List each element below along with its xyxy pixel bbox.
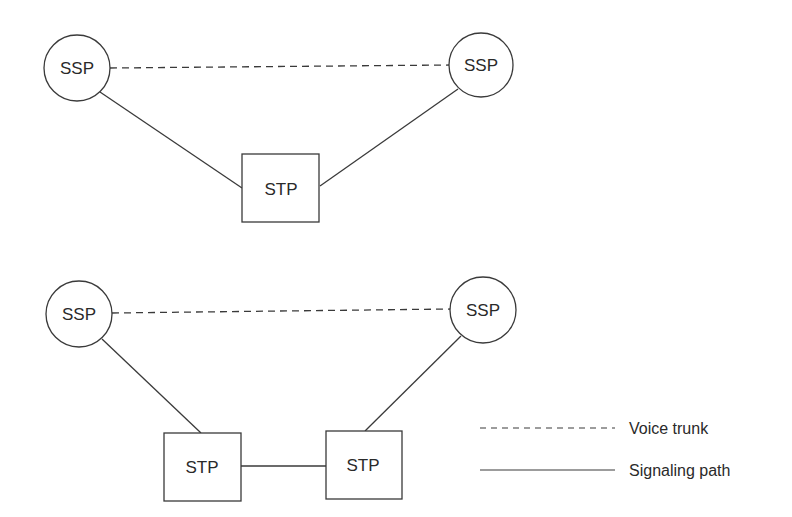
ssp-label: SSP [466,301,500,320]
signaling-path-line [100,92,242,188]
ssp-label: SSP [62,305,96,324]
signaling-path-line [320,89,458,186]
legend [480,428,615,470]
stp-label: STP [346,456,379,475]
voice-trunk-line [112,309,451,313]
ss7-network-diagram: SSP SSP STP SSP SSP STP STP Voice trunk … [0,0,792,517]
voice-trunk-line [110,65,449,68]
bottom-diagram [46,277,516,501]
stp-label: STP [264,180,297,199]
signaling-path-line [365,336,461,431]
legend-voice-trunk-label: Voice trunk [629,420,709,437]
signaling-path-line [102,339,201,433]
stp-label: STP [185,458,218,477]
ssp-label: SSP [464,56,498,75]
ssp-label: SSP [60,59,94,78]
legend-signaling-path-label: Signaling path [629,462,730,479]
